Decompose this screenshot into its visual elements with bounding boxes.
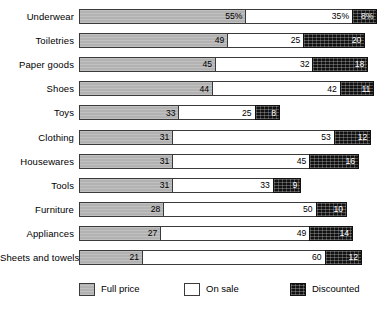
bar-segment-on-sale: 53 [172,130,334,145]
segment-value-label: 33 [260,181,273,190]
bar-segment-discounted: 8 [255,105,280,120]
stacked-bar: 315312 [79,130,371,145]
category-label: Underwear [0,8,74,26]
bar-segment-full-price: 31 [79,178,173,193]
bar-segment-discounted: 12 [325,250,363,265]
chart-row: Underwear55%35%8% [0,8,381,26]
chart-row: Toiletries492520 [0,32,381,50]
chart-row: Sheets and towels216012 [0,249,381,267]
category-label: Furniture [0,201,74,219]
bar-segment-discounted: 20 [303,33,365,48]
segment-value-label: 55% [225,12,245,21]
bar-segment-full-price: 33 [79,105,179,120]
bar-segment-full-price: 27 [79,226,161,241]
legend-label-on-sale: On sale [206,284,239,294]
category-label: Tools [0,177,74,195]
segment-value-label: 32 [300,60,313,69]
chart-row: Appliances274914 [0,225,381,243]
bar-segment-full-price: 55% [79,9,246,24]
chart-row: Shoes444211 [0,80,381,98]
bar-segment-discounted: 9 [273,178,301,193]
stacked-bar: 444211 [79,81,374,96]
bar-segment-on-sale: 45 [172,154,310,169]
legend-item-on-sale: On sale [184,280,239,298]
bar-segment-discounted: 14 [309,226,353,241]
bar-segment-on-sale: 50 [163,202,316,217]
segment-value-label: 33 [166,109,179,118]
bar-segment-on-sale: 25 [227,33,304,48]
bar-segment-on-sale: 32 [215,57,313,72]
segment-value-label: 20 [352,36,365,45]
segment-value-label: 49 [297,229,310,238]
segment-value-label: 35% [332,12,352,21]
bar-segment-discounted: 10 [316,202,347,217]
category-label: Sheets and towels [0,249,74,267]
stacked-bar-chart: Underwear55%35%8%Toiletries492520Paper g… [0,0,381,309]
stacked-bar: 33258 [79,105,280,120]
bar-segment-on-sale: 33 [172,178,273,193]
chart-row: Clothing315312 [0,129,381,147]
segment-value-label: 10 [333,205,346,214]
stacked-bar: 285010 [79,202,347,217]
legend-label-discounted: Discounted [312,284,360,294]
segment-value-label: 18 [355,60,368,69]
segment-value-label: 50 [303,205,316,214]
stacked-bar: 492520 [79,33,365,48]
category-label: Clothing [0,129,74,147]
bar-segment-discounted: 12 [334,130,372,145]
segment-value-label: 25 [291,36,304,45]
bar-segment-on-sale: 49 [160,226,310,241]
stacked-bar: 55%35%8% [79,9,377,24]
segment-value-label: 21 [129,253,142,262]
segment-value-label: 8% [361,12,376,21]
segment-value-label: 12 [349,253,362,262]
segment-value-label: 49 [215,36,228,45]
chart-row: Toys33258 [0,104,381,122]
segment-value-label: 14 [339,229,352,238]
segment-value-label: 8 [271,109,279,118]
category-label: Housewares [0,153,74,171]
bar-segment-full-price: 31 [79,154,173,169]
bar-segment-on-sale: 35% [245,9,353,24]
segment-value-label: 45 [297,157,310,166]
legend-swatch-discounted-icon [290,283,306,296]
legend-item-discounted: Discounted [290,280,360,298]
bar-segment-discounted: 8% [352,9,377,24]
segment-value-label: 60 [312,253,325,262]
chart-row: Tools31339 [0,177,381,195]
legend-swatch-full-price-icon [79,283,95,296]
category-label: Paper goods [0,56,74,74]
category-label: Appliances [0,225,74,243]
bar-segment-full-price: 45 [79,57,216,72]
segment-value-label: 16 [346,157,359,166]
segment-value-label: 31 [160,181,173,190]
segment-value-label: 27 [148,229,161,238]
bar-segment-full-price: 21 [79,250,143,265]
chart-row: Housewares314516 [0,153,381,171]
stacked-bar: 274914 [79,226,353,241]
chart-row: Furniture285010 [0,201,381,219]
segment-value-label: 42 [327,85,340,94]
segment-value-label: 25 [242,109,255,118]
bar-segment-on-sale: 25 [178,105,255,120]
stacked-bar: 31339 [79,178,301,193]
chart-row: Paper goods453218 [0,56,381,74]
bar-segment-discounted: 16 [309,154,359,169]
bar-segment-on-sale: 42 [212,81,341,96]
segment-value-label: 53 [321,133,334,142]
bar-segment-full-price: 31 [79,130,173,145]
category-label: Toiletries [0,32,74,50]
segment-value-label: 12 [358,133,371,142]
segment-value-label: 44 [199,85,212,94]
segment-value-label: 31 [160,157,173,166]
stacked-bar: 453218 [79,57,368,72]
segment-value-label: 28 [151,205,164,214]
segment-value-label: 11 [361,85,373,94]
bar-segment-full-price: 44 [79,81,213,96]
legend-swatch-on-sale-icon [184,283,200,296]
chart-legend: Full price On sale Discounted [0,280,381,302]
bar-segment-full-price: 28 [79,202,164,217]
legend-item-full-price: Full price [79,280,140,298]
legend-label-full-price: Full price [101,284,140,294]
category-label: Toys [0,104,74,122]
